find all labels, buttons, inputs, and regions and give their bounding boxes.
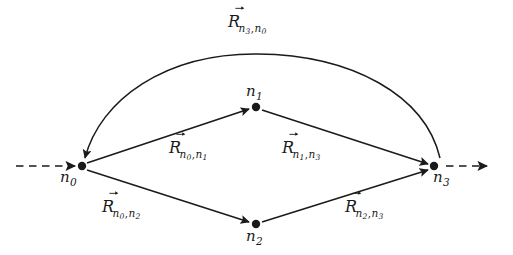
graph-canvas xyxy=(0,0,513,255)
node-n1[interactable] xyxy=(252,103,260,111)
node-label-n1: n1 xyxy=(246,84,262,99)
node-label-n0: n0 xyxy=(60,170,76,185)
graph-diagram: n0 n1 n2 n3 Rn3,n0 Rn0,n1 Rn1,n3 Rn0,n2 … xyxy=(0,0,513,255)
edge-label-n1-n3: Rn1,n3 xyxy=(282,140,323,156)
edge-label-n0-n1: Rn0,n1 xyxy=(169,140,210,156)
edge-n3-to-n0-arc xyxy=(85,54,440,158)
node-label-n3: n3 xyxy=(433,170,449,185)
edge-n0-to-n1 xyxy=(87,109,249,163)
edge-label-n3-n0: Rn3,n0 xyxy=(228,14,269,30)
edge-label-n0-n2: Rn0,n2 xyxy=(102,199,143,215)
node-label-n2: n2 xyxy=(246,229,262,244)
edge-label-n2-n3: Rn2,n3 xyxy=(345,199,386,215)
node-n0[interactable] xyxy=(78,162,86,170)
